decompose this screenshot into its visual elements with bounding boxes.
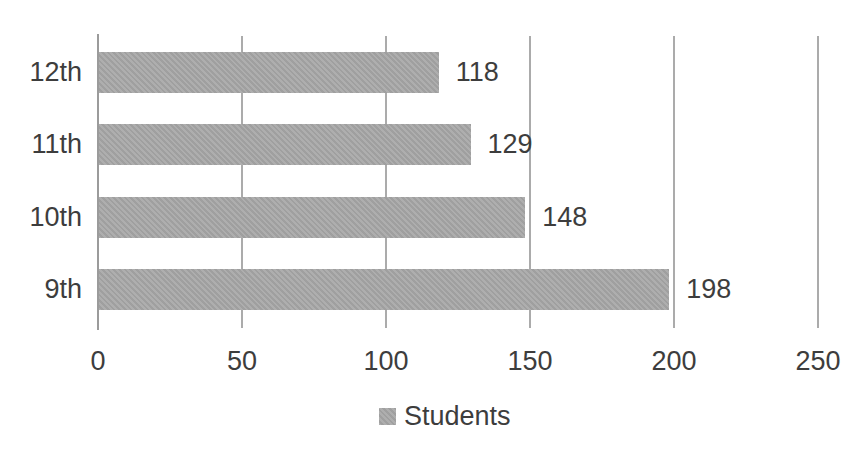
- data-label-11th: 129: [488, 124, 533, 165]
- data-label-10th: 148: [542, 197, 587, 238]
- legend: Students: [379, 402, 511, 430]
- data-label-12th: 118: [456, 52, 499, 93]
- x-tick-label-200: 200: [651, 346, 696, 376]
- gridline-250: [817, 36, 819, 328]
- category-label-10th: 10th: [0, 197, 82, 238]
- category-label-12th: 12th: [0, 52, 82, 93]
- legend-label: Students: [404, 401, 511, 432]
- x-tick-label-150: 150: [507, 346, 552, 376]
- x-tick-label-50: 50: [227, 346, 257, 376]
- legend-swatch-icon: [379, 408, 396, 425]
- gridline-200: [673, 36, 675, 328]
- bar-12th: [99, 52, 439, 93]
- x-tick-label-250: 250: [795, 346, 840, 376]
- category-label-11th: 11th: [0, 124, 82, 165]
- x-tick-label-100: 100: [363, 346, 408, 376]
- x-tick-label-0: 0: [90, 346, 105, 376]
- bar-11th: [99, 124, 471, 165]
- students-bar-chart: 12th11th10th9th 118129148198 05010015020…: [0, 0, 865, 449]
- data-label-9th: 198: [686, 269, 731, 310]
- bar-10th: [99, 197, 525, 238]
- bar-9th: [99, 269, 669, 310]
- category-label-9th: 9th: [0, 269, 82, 310]
